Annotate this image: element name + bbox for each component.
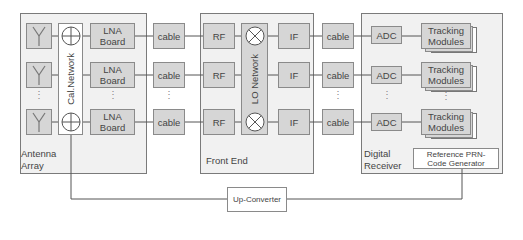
tracking-stack-2: Tracking Modules — [421, 62, 491, 96]
rf-n: RF — [203, 109, 235, 135]
lna-board-2: LNA Board — [90, 62, 135, 88]
if-1: IF — [278, 23, 310, 49]
antenna-n — [26, 109, 52, 135]
cal-coupler-icon — [60, 25, 82, 47]
lna-board-1: LNA Board — [90, 23, 135, 49]
antenna-ellipsis: ⋮ — [26, 92, 52, 106]
tracking-modules-n: Tracking Modules — [421, 109, 471, 135]
tracking-stack-n: Tracking Modules — [421, 109, 491, 143]
antenna-2 — [26, 62, 52, 88]
lna-board-n: LNA Board — [90, 109, 135, 135]
mixer-icon — [244, 25, 266, 47]
tracking-stack-1: Tracking Modules — [421, 23, 491, 57]
tracking-modules-2: Tracking Modules — [421, 62, 471, 88]
cable-2-2: cable — [322, 62, 354, 88]
cable-2-n: cable — [322, 109, 354, 135]
if-n: IF — [278, 109, 310, 135]
cable-n: cable — [153, 109, 185, 135]
antenna-icon — [31, 65, 47, 85]
antenna-icon — [31, 26, 47, 46]
antenna-array-label: Antenna Array — [21, 148, 61, 172]
adc-1: ADC — [371, 26, 402, 44]
cal-network-label: Cal.Network — [65, 53, 76, 105]
tracking-ellipsis: ⋮ — [421, 93, 471, 107]
if-2: IF — [278, 62, 310, 88]
antenna-icon — [31, 112, 47, 132]
lna-ellipsis: ⋮ — [90, 92, 135, 106]
cable-2-1: cable — [322, 23, 354, 49]
adc-2: ADC — [371, 66, 402, 84]
digital-receiver-label: Digital Receiver — [364, 148, 409, 172]
mixer-icon — [244, 111, 266, 133]
rf-2: RF — [203, 62, 235, 88]
adc-n: ADC — [371, 113, 402, 131]
cable-1: cable — [153, 23, 185, 49]
up-converter: Up-Converter — [227, 187, 287, 212]
cable-ellipsis: ⋮ — [153, 92, 185, 106]
reference-prn-code-generator: Reference PRN-Code Generator — [413, 148, 499, 169]
lo-network-label: LO Network — [249, 54, 260, 104]
adc-ellipsis: ⋮ — [371, 92, 402, 106]
tracking-modules-1: Tracking Modules — [421, 23, 471, 49]
rf-1: RF — [203, 23, 235, 49]
antenna-1 — [26, 23, 52, 49]
cal-coupler-icon — [60, 111, 82, 133]
cable-2: cable — [153, 62, 185, 88]
front-end-label: Front End — [206, 155, 266, 167]
cable-2-ellipsis: ⋮ — [322, 92, 354, 106]
